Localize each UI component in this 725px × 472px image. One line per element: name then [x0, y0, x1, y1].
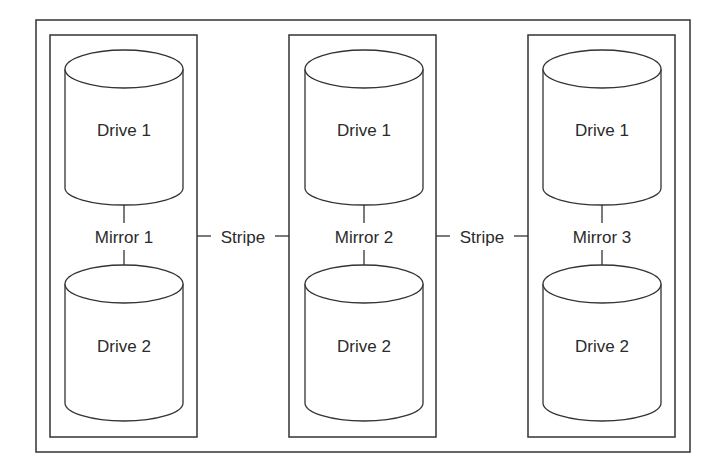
stripe-connector-2: Stripe — [436, 228, 528, 247]
stripe-label: Stripe — [460, 228, 504, 247]
raid-diagram: Drive 1 Mirror 1 Drive 2 Stripe Drive 1 … — [0, 0, 725, 472]
stripe-label: Stripe — [221, 228, 265, 247]
drive-label: Drive 1 — [337, 121, 391, 140]
mirror-label: Mirror 2 — [335, 228, 394, 247]
mirror-group-1: Drive 1 Mirror 1 Drive 2 — [50, 35, 197, 437]
mirror-label: Mirror 3 — [573, 228, 632, 247]
drive-label: Drive 1 — [575, 121, 629, 140]
mirror-group-3: Drive 1 Mirror 3 Drive 2 — [528, 35, 675, 437]
stripe-connector-1: Stripe — [197, 228, 289, 247]
drive-label: Drive 1 — [97, 121, 151, 140]
mirror-label: Mirror 1 — [95, 228, 154, 247]
drive-label: Drive 2 — [97, 337, 151, 356]
drive-label: Drive 2 — [575, 337, 629, 356]
drive-label: Drive 2 — [337, 337, 391, 356]
mirror-group-2: Drive 1 Mirror 2 Drive 2 — [289, 35, 436, 437]
